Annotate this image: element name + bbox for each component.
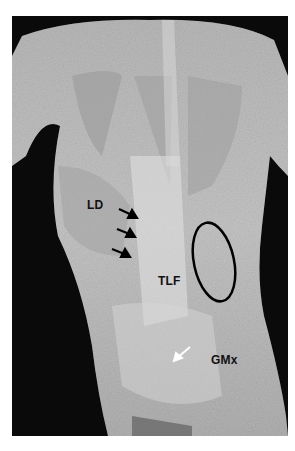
anatomy-photo: LD TLF GMx [12,16,288,436]
label-gmx: GMx [211,353,238,367]
highlight-ellipse [186,219,242,306]
label-tlf: TLF [158,274,181,288]
arrow-annotations [12,16,288,436]
label-ld: LD [87,198,103,212]
